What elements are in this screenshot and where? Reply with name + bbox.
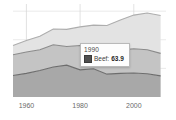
x-tick-label: 2000 <box>126 102 142 109</box>
x-tick-label: 1980 <box>72 102 88 109</box>
chart-widget: 196019802000 1990 Beef: 63.9 <box>0 0 176 120</box>
x-tick-label: 1960 <box>19 102 35 109</box>
tooltip-value: 63.9 <box>111 55 124 63</box>
tooltip-title: 1990 <box>84 46 126 54</box>
x-axis-tick-labels: 196019802000 <box>19 102 142 109</box>
tooltip-row: Beef: 63.9 <box>84 55 126 63</box>
tooltip-series-label: Beef: <box>94 55 109 63</box>
tooltip-color-swatch-icon <box>84 55 92 63</box>
chart-tooltip: 1990 Beef: 63.9 <box>80 43 130 67</box>
